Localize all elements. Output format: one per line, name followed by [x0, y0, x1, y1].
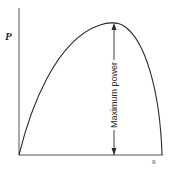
power-curve-chart — [0, 0, 174, 172]
power-curve — [19, 23, 162, 155]
x-axis-label: R — [152, 159, 157, 165]
arrow-head-up-icon — [112, 23, 117, 30]
arrow-head-down-icon — [112, 148, 117, 155]
max-power-annotation: Maximum power — [109, 60, 119, 130]
y-axis-label: P — [5, 30, 12, 42]
